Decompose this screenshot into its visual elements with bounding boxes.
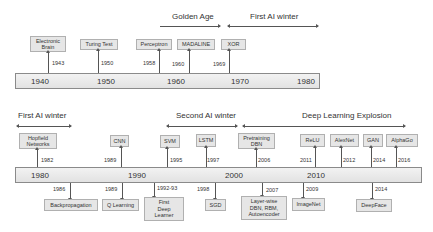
axis-tick: 1990: [128, 171, 146, 180]
event-year: 2014: [375, 186, 387, 192]
arrow-up-icon: [256, 149, 257, 167]
event-year: 1982: [41, 157, 53, 163]
era-label-second-ai-winter: Second AI winter: [176, 111, 236, 120]
axis-tick: 1970: [231, 77, 249, 86]
event-box-gan: GAN: [363, 134, 383, 147]
arrow-down-icon: [122, 183, 123, 199]
event-year: 1943: [52, 60, 64, 66]
event-box-backpropagation: Backpropagation: [44, 199, 98, 211]
event-year: 1989: [104, 157, 116, 163]
era-label-golden-age: Golden Age: [172, 12, 214, 21]
axis-tick: 1960: [167, 77, 185, 86]
arrow-down-icon: [372, 183, 373, 199]
era-arrow-golden-age: [160, 26, 220, 27]
arrow-up-icon: [98, 50, 99, 73]
event-box-madaline: MADALINE: [177, 39, 215, 50]
event-year: 1969: [213, 61, 225, 67]
arrow-up-icon: [37, 149, 38, 167]
event-year: 1997: [207, 157, 219, 163]
era-arrow-first-ai-winter: [228, 26, 318, 27]
event-box-svm: SVM: [160, 135, 180, 148]
event-year: 1986: [53, 186, 65, 192]
event-year: 1989: [105, 186, 117, 192]
event-box-imagenet: ImageNet: [292, 198, 325, 211]
arrow-down-icon: [70, 183, 71, 199]
event-year: 1992-93: [157, 185, 177, 191]
era-label-first-ai-winter: First AI winter: [250, 12, 298, 21]
arrow-down-icon: [154, 183, 155, 197]
arrow-up-icon: [159, 50, 160, 73]
event-box-first-deep-learner: First Deep Learner: [144, 197, 184, 221]
event-year: 2009: [306, 186, 318, 192]
event-box-layer-wise-dbn: Layer-wise DBN, RBM, Autoencoder: [241, 196, 287, 220]
axis-tick: 1980: [297, 77, 315, 86]
arrow-down-icon: [303, 183, 304, 198]
event-year: 1950: [101, 60, 113, 66]
arrow-up-icon: [121, 147, 122, 167]
event-box-xor: XOR: [221, 39, 246, 50]
era-arrow-second-ai-winter: [167, 126, 237, 127]
era-label-deep-learning-explosion: Deep Learning Explosion: [302, 111, 391, 120]
arrow-up-icon: [341, 147, 342, 167]
event-year: 2006: [258, 157, 270, 163]
event-year: 1995: [170, 157, 182, 163]
arrow-up-icon: [229, 50, 230, 73]
arrow-up-icon: [371, 147, 372, 167]
event-year: 1998: [197, 186, 209, 192]
event-year: 2011: [300, 157, 312, 163]
arrow-up-icon: [167, 148, 168, 167]
axis-tick: 1940: [31, 77, 49, 86]
era-arrow-deep-learning-explosion: [243, 126, 405, 127]
event-box-perceptron: Perceptron: [136, 39, 172, 50]
arrow-down-icon: [215, 183, 216, 199]
event-year: 2007: [266, 187, 278, 193]
axis-tick: 1950: [97, 77, 115, 86]
event-year: 1960: [172, 61, 184, 67]
event-box-alexnet: AlexNet: [330, 134, 359, 147]
axis-tick: 2010: [307, 171, 325, 180]
event-box-deepface: DeepFace: [356, 199, 392, 212]
axis-tick: 1980: [31, 171, 49, 180]
event-box-sgd: SGD: [205, 199, 226, 211]
event-year: 2014: [373, 157, 385, 163]
event-year: 2016: [398, 157, 410, 163]
event-box-q-learning: Q Learning: [102, 199, 139, 211]
arrow-up-icon: [396, 147, 397, 167]
event-year: 1958: [143, 60, 155, 66]
arrow-up-icon: [48, 52, 49, 73]
event-box-alphago: AlphaGo: [386, 134, 418, 147]
event-year: 2012: [343, 157, 355, 163]
arrow-up-icon: [189, 50, 190, 73]
timeline-axis-bottom: 1980 1990 2000 2010: [15, 167, 422, 183]
arrow-up-icon: [315, 147, 316, 167]
era-label-first-ai-winter-2: First AI winter: [18, 111, 66, 120]
axis-tick: 2000: [225, 171, 243, 180]
timeline-axis-top: 1940 1950 1960 1970 1980: [15, 73, 320, 89]
arrow-down-icon: [262, 183, 263, 196]
era-arrow-first-ai-winter-2: [17, 126, 71, 127]
